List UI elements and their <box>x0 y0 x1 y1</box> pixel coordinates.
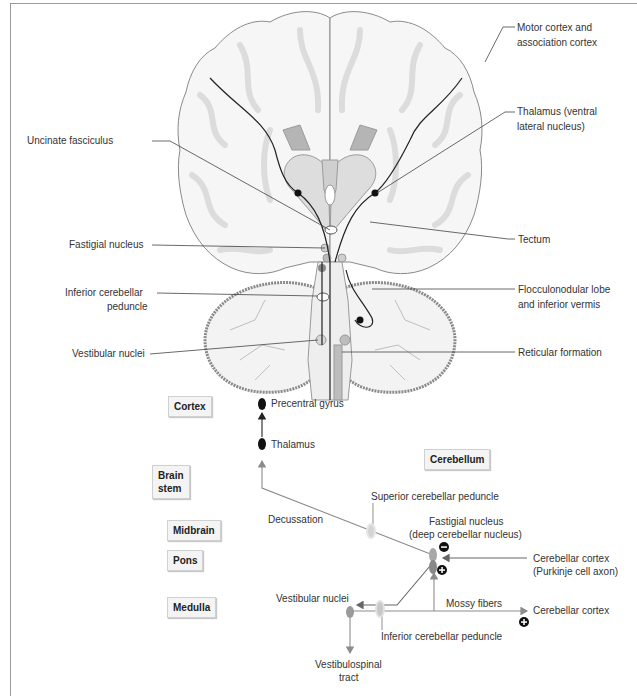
label-cerebellar-cortex: Cerebellar cortex <box>533 604 609 617</box>
level-box-midbrain: Midbrain <box>167 520 221 541</box>
label-decussation: Decussation <box>268 513 323 526</box>
arrow-fastigial-to-thalamus <box>262 461 433 555</box>
label-inferior-cerebellar-peduncle-flow: Inferior cerebellar peduncle <box>381 630 502 643</box>
plus-sign-icon <box>437 565 447 575</box>
arrow-fastigial-to-vestibular <box>357 566 430 605</box>
node-superior-cerebellar-peduncle <box>367 524 375 538</box>
level-box-cerebellum: Cerebellum <box>424 449 490 470</box>
label-vestibulospinal-2: tract <box>339 671 358 684</box>
label-mossy-fibers: Mossy fibers <box>446 597 502 610</box>
label-vestibulospinal-1: Vestibulospinal <box>315 658 382 671</box>
label-superior-cerebellar-peduncle: Superior cerebellar peduncle <box>371 490 499 503</box>
label-purkinje-1: Cerebellar cortex <box>533 552 609 565</box>
level-box-cortex: Cortex <box>168 396 212 417</box>
label-purkinje-2: (Purkinje cell axon) <box>533 565 618 578</box>
node-vestibular-nuclei <box>346 606 354 618</box>
label-fastigial-2: (deep cerebellar nucleus) <box>409 528 522 541</box>
minus-sign-icon <box>439 542 449 552</box>
label-vestibular-nuclei-flow: Vestibular nuclei <box>276 592 349 605</box>
node-thalamus <box>258 438 266 450</box>
level-box-brainstem: Brain stem <box>152 465 190 499</box>
plus-sign-icon-cortex <box>519 617 529 627</box>
level-box-medulla: Medulla <box>167 597 216 618</box>
label-thalamus: Thalamus <box>271 438 315 451</box>
node-inferior-cerebellar-peduncle <box>376 601 384 617</box>
node-fastigial-top <box>429 548 437 562</box>
level-box-brainstem-line2: stem <box>158 482 184 495</box>
node-fastigial-bottom <box>429 560 437 574</box>
level-box-brainstem-line1: Brain <box>158 469 184 482</box>
label-precentral-gyrus: Precentral gyrus <box>271 397 344 410</box>
label-fastigial-1: Fastigial nucleus <box>429 515 503 528</box>
level-box-pons: Pons <box>167 550 203 571</box>
node-precentral-gyrus <box>258 398 266 410</box>
